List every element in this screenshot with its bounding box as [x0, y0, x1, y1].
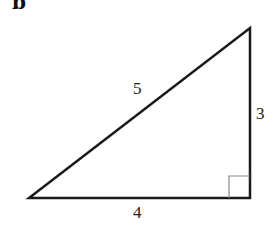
triangle: [29, 28, 250, 198]
right-angle-marker: [229, 176, 250, 198]
hypotenuse-label: 5: [133, 79, 142, 98]
vertical-side-label: 3: [256, 104, 265, 123]
right-triangle-diagram: 5 3 4: [0, 0, 277, 230]
base-label: 4: [133, 203, 142, 222]
